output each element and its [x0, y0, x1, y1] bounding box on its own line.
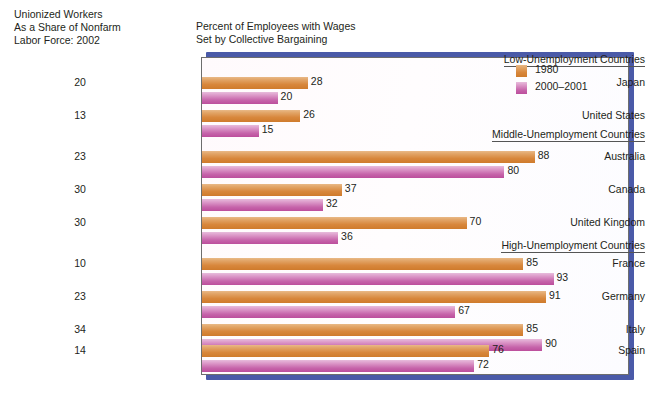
bar-1980: [202, 258, 523, 270]
bar-value-1980: 76: [492, 343, 504, 355]
bar-1980: [202, 110, 300, 122]
legend-label-2000-2001: 2000–2001: [535, 80, 588, 92]
country-label: Canada: [608, 183, 645, 195]
bar-value-2000-2001: 93: [557, 271, 569, 283]
country-label: Germany: [602, 290, 645, 302]
bar-value-2000-2001: 80: [507, 164, 519, 176]
legend-swatch-2000-2001: [516, 82, 527, 94]
section-heading: High-Unemployment Countries: [501, 239, 645, 253]
bar-2000-2001: [202, 92, 278, 104]
union-share-value: 14: [58, 344, 102, 356]
bar-value-1980: 70: [470, 215, 482, 227]
chart-title: Percent of Employees with Wages Set by C…: [196, 20, 356, 46]
bar-2000-2001: [202, 232, 338, 244]
union-share-value: 20: [58, 76, 102, 88]
country-label: France: [612, 257, 645, 269]
bar-1980: [202, 291, 546, 303]
country-label: United States: [582, 109, 645, 121]
plot-area: [201, 57, 629, 375]
bar-value-2000-2001: 36: [341, 230, 353, 242]
country-label: Italy: [626, 323, 645, 335]
bar-value-1980: 37: [345, 182, 357, 194]
bar-2000-2001: [202, 306, 455, 318]
bar-value-2000-2001: 72: [477, 358, 489, 370]
union-share-value: 23: [58, 150, 102, 162]
union-share-value: 30: [58, 183, 102, 195]
country-label: Australia: [604, 150, 645, 162]
bar-2000-2001: [202, 273, 554, 285]
chart-figure: Unionized Workers As a Share of Nonfarm …: [0, 0, 649, 396]
bar-1980: [202, 184, 342, 196]
union-share-value: 13: [58, 109, 102, 121]
country-label: Japan: [616, 76, 645, 88]
bar-value-1980: 85: [526, 256, 538, 268]
bar-value-1980: 28: [311, 75, 323, 87]
bar-value-2000-2001: 90: [545, 337, 557, 349]
bar-value-1980: 91: [549, 289, 561, 301]
bar-1980: [202, 151, 535, 163]
bar-value-2000-2001: 15: [262, 123, 274, 135]
bar-1980: [202, 345, 489, 357]
union-share-value: 23: [58, 290, 102, 302]
bar-value-1980: 88: [538, 149, 550, 161]
bar-2000-2001: [202, 166, 504, 178]
bar-2000-2001: [202, 199, 323, 211]
section-heading: Middle-Unemployment Countries: [492, 128, 645, 142]
bar-2000-2001: [202, 125, 259, 137]
country-label: United Kingdom: [570, 216, 645, 228]
bar-2000-2001: [202, 360, 474, 372]
bar-value-2000-2001: 67: [458, 304, 470, 316]
bar-value-1980: 26: [303, 108, 315, 120]
union-share-value: 30: [58, 216, 102, 228]
union-share-value: 10: [58, 257, 102, 269]
bar-value-2000-2001: 32: [326, 197, 338, 209]
bar-1980: [202, 77, 308, 89]
bar-value-1980: 85: [526, 322, 538, 334]
bar-1980: [202, 217, 467, 229]
legend-label-1980: 1980: [535, 63, 558, 75]
country-label: Spain: [618, 344, 645, 356]
left-heading: Unionized Workers As a Share of Nonfarm …: [14, 8, 121, 48]
bar-value-2000-2001: 20: [281, 90, 293, 102]
legend-swatch-1980: [516, 65, 527, 77]
bar-1980: [202, 324, 523, 336]
union-share-value: 34: [58, 323, 102, 335]
